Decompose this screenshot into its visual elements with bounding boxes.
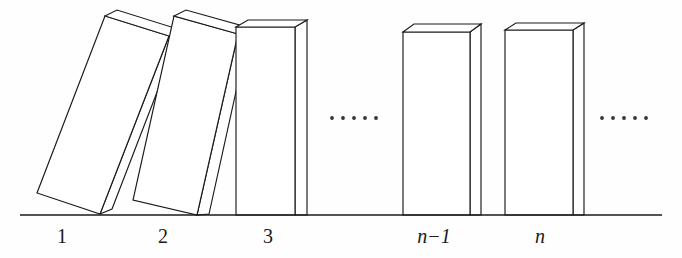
domino-label-n-minus-1: n−1 [417, 225, 451, 247]
ellipsis-dot [363, 116, 367, 120]
ellipsis-dot [622, 116, 626, 120]
domino-n-top-face [505, 23, 584, 30]
domino-n-minus-1-side-band [470, 24, 481, 215]
domino-diagram: 1 2 3 n−1 n [0, 0, 682, 258]
domino-label-n: n [535, 225, 545, 247]
domino-3-side-band [295, 20, 307, 215]
ellipsis-dot [341, 116, 345, 120]
domino-n-minus-1-front-face [403, 32, 470, 215]
ellipsis-dot [374, 116, 378, 120]
domino-label-2: 2 [158, 225, 168, 247]
domino-n-minus-1-top-face [403, 24, 481, 32]
domino-3-front-face [236, 27, 295, 215]
domino-n-minus-1 [403, 24, 481, 215]
domino-label-3: 3 [263, 225, 273, 247]
domino-3-top-face [236, 20, 307, 27]
ellipsis-right [600, 116, 648, 120]
domino-n [505, 23, 584, 215]
domino-label-1: 1 [57, 225, 67, 247]
domino-figure-container: 1 2 3 n−1 n [0, 0, 682, 258]
ellipsis-dot [611, 116, 615, 120]
domino-n-side-band [573, 23, 584, 215]
ellipsis-dot [600, 116, 604, 120]
ellipsis-dot [330, 116, 334, 120]
ellipsis-dot [633, 116, 637, 120]
ellipsis-dot [644, 116, 648, 120]
domino-n-front-face [505, 30, 573, 215]
domino-3 [236, 20, 307, 215]
ellipsis-dot [352, 116, 356, 120]
ellipsis-left [330, 116, 378, 120]
